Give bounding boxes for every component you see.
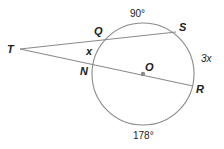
label-n: N: [80, 65, 89, 77]
label-r: R: [196, 83, 204, 95]
secant-tr: [20, 49, 193, 86]
arc-qn-measure: x: [85, 45, 93, 57]
label-t: T: [7, 43, 15, 55]
arc-sr-measure: 3x: [201, 53, 213, 64]
label-q: Q: [94, 25, 103, 37]
geometry-diagram: T Q S N O R 90° 3x 178° x: [0, 0, 224, 149]
label-s: S: [179, 21, 187, 33]
arc-qs-measure: 90°: [130, 8, 145, 19]
arc-nr-measure: 178°: [133, 130, 154, 141]
label-o: O: [145, 61, 154, 73]
